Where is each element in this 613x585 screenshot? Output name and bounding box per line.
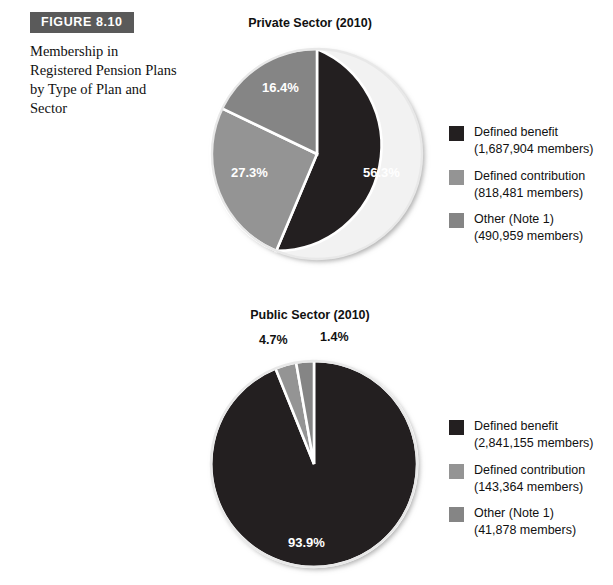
legend-text: Other (Note 1) (490,959 members): [474, 211, 583, 246]
legend-swatch-defined-contribution: [449, 464, 464, 479]
legend-private-sector: Defined benefit (1,687,904 members) Defi…: [449, 124, 594, 255]
pie-label-private-other: 16.4%: [262, 80, 299, 95]
legend-item-members: (818,481 members): [474, 185, 585, 202]
chart-title-public-sector: Public Sector (2010): [250, 308, 370, 322]
pie-label-public-defined-contribution: 4.7%: [259, 333, 288, 347]
legend-swatch-other: [449, 213, 464, 228]
legend-swatch-defined-benefit: [449, 420, 464, 435]
chart-panel-public-sector: Public Sector (2010) 93.9% 4.7% 1.4% Def…: [0, 295, 613, 585]
legend-item-members: (2,841,155 members): [474, 435, 594, 452]
legend-item: Other (Note 1) (490,959 members): [449, 211, 594, 246]
legend-item-members: (490,959 members): [474, 228, 583, 245]
legend-item: Defined contribution (818,481 members): [449, 168, 594, 203]
legend-item-label: Other (Note 1): [474, 505, 576, 522]
legend-item: Other (Note 1) (41,878 members): [449, 505, 594, 540]
legend-item-members: (41,878 members): [474, 522, 576, 539]
legend-swatch-other: [449, 507, 464, 522]
legend-item-label: Defined benefit: [474, 418, 594, 435]
legend-swatch-defined-contribution: [449, 170, 464, 185]
chart-title-private-sector: Private Sector (2010): [248, 16, 372, 30]
pie-label-private-defined-benefit: 56.3%: [363, 165, 400, 180]
chart-panel-private-sector: Private Sector (2010) 56.3% 27.3% 16.4% …: [0, 0, 613, 295]
legend-swatch-defined-benefit: [449, 126, 464, 141]
legend-text: Defined contribution (143,364 members): [474, 462, 585, 497]
legend-item-label: Defined contribution: [474, 168, 585, 185]
legend-public-sector: Defined benefit (2,841,155 members) Defi…: [449, 418, 594, 549]
pie-label-public-other: 1.4%: [320, 330, 349, 344]
legend-item-label: Defined contribution: [474, 462, 585, 479]
pie-chart-private-sector: [207, 44, 433, 270]
legend-text: Defined contribution (818,481 members): [474, 168, 585, 203]
legend-text: Defined benefit (2,841,155 members): [474, 418, 594, 453]
pie-label-private-defined-contribution: 27.3%: [231, 165, 268, 180]
legend-item: Defined contribution (143,364 members): [449, 462, 594, 497]
legend-text: Defined benefit (1,687,904 members): [474, 124, 594, 159]
legend-item-label: Other (Note 1): [474, 211, 583, 228]
legend-item-members: (1,687,904 members): [474, 141, 594, 158]
legend-item-members: (143,364 members): [474, 479, 585, 496]
legend-item: Defined benefit (2,841,155 members): [449, 418, 594, 453]
legend-item-label: Defined benefit: [474, 124, 594, 141]
legend-item: Defined benefit (1,687,904 members): [449, 124, 594, 159]
pie-label-public-defined-benefit: 93.9%: [288, 535, 325, 550]
legend-text: Other (Note 1) (41,878 members): [474, 505, 576, 540]
